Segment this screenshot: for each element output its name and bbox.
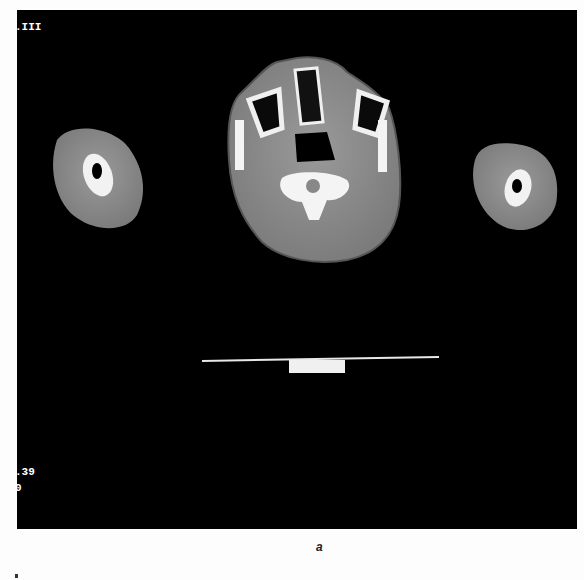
overlay-bottom-left-2: 0: [17, 482, 22, 494]
ct-scan-graphic: [17, 10, 577, 529]
ct-image-panel: .III .39 0: [17, 10, 577, 529]
right-arm-section: [473, 143, 557, 230]
corner-mark: [15, 574, 18, 578]
head-section: [228, 57, 400, 261]
ct-table: [202, 357, 439, 373]
overlay-bottom-left-1: .39: [17, 466, 35, 478]
figure-caption: a: [316, 540, 323, 554]
left-arm-section: [53, 128, 143, 228]
overlay-top-left: .III: [17, 21, 41, 33]
